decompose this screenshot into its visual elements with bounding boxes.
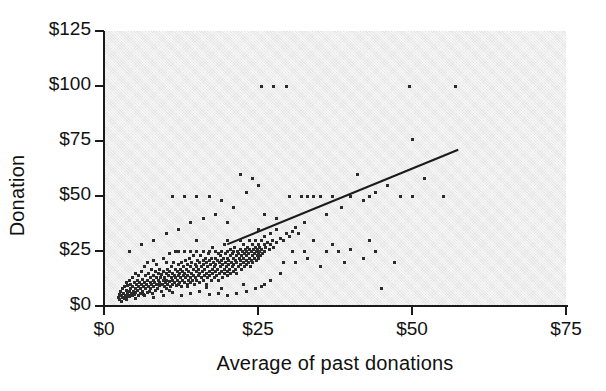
- x-tick-mark: [103, 306, 105, 315]
- data-point: [245, 290, 248, 293]
- scatter-chart: Donation $0$25$50$75$100$125 $0$25$50$75…: [0, 0, 606, 391]
- x-tick-mark: [411, 306, 413, 315]
- data-point: [208, 293, 211, 296]
- data-point: [368, 239, 371, 242]
- data-point: [249, 265, 252, 268]
- data-point: [239, 173, 242, 176]
- x-axis-line: [103, 305, 568, 307]
- data-point: [131, 276, 134, 279]
- x-axis-title-text: Average of past donations: [216, 352, 453, 374]
- data-point: [423, 177, 426, 180]
- data-point: [188, 257, 191, 260]
- data-point: [220, 199, 223, 202]
- data-point: [120, 300, 123, 303]
- x-tick-mark: [565, 306, 567, 315]
- data-point: [297, 232, 300, 235]
- data-point: [192, 254, 195, 257]
- data-point: [319, 195, 322, 198]
- data-point: [171, 291, 174, 294]
- data-point: [260, 285, 263, 288]
- data-point: [198, 290, 201, 293]
- data-point: [300, 195, 303, 198]
- data-point: [186, 285, 189, 288]
- data-point: [134, 297, 137, 300]
- data-point: [205, 286, 208, 289]
- data-point: [211, 246, 214, 249]
- data-point: [288, 195, 291, 198]
- y-tick-label: $25: [59, 238, 91, 260]
- data-point: [356, 173, 359, 176]
- data-point: [331, 243, 334, 246]
- data-point: [168, 289, 171, 292]
- data-point: [408, 85, 411, 88]
- data-point: [263, 235, 266, 238]
- data-point: [312, 195, 315, 198]
- data-point: [172, 261, 175, 264]
- data-point: [288, 235, 291, 238]
- data-point: [165, 261, 168, 264]
- y-tick-label: $100: [49, 73, 91, 95]
- data-point: [337, 250, 340, 253]
- data-point: [399, 195, 402, 198]
- y-tick-mark: [95, 85, 104, 87]
- data-point: [150, 268, 153, 271]
- data-point: [374, 250, 377, 253]
- data-point: [374, 191, 377, 194]
- trendline-segment: [227, 150, 458, 245]
- data-point: [146, 261, 149, 264]
- data-point: [271, 239, 274, 242]
- data-point: [162, 257, 165, 260]
- data-point: [349, 195, 352, 198]
- data-point: [386, 184, 389, 187]
- data-point: [137, 274, 140, 277]
- data-point: [125, 298, 128, 301]
- data-point: [189, 292, 192, 295]
- data-point: [235, 272, 238, 275]
- data-point: [275, 228, 278, 231]
- data-point: [340, 206, 343, 209]
- data-point: [147, 272, 150, 275]
- x-tick-label: $0: [69, 318, 139, 340]
- data-point: [156, 287, 159, 290]
- data-point: [263, 283, 266, 286]
- data-point: [411, 195, 414, 198]
- data-point: [170, 265, 173, 268]
- data-point: [210, 279, 213, 282]
- data-point: [208, 195, 211, 198]
- data-point: [220, 287, 223, 290]
- data-point: [291, 230, 294, 233]
- data-point: [222, 257, 225, 260]
- data-point: [221, 276, 224, 279]
- trendline: [104, 31, 566, 306]
- y-tick-label: $50: [59, 183, 91, 205]
- data-point: [411, 138, 414, 141]
- data-point: [275, 217, 278, 220]
- data-point: [195, 239, 198, 242]
- data-point: [257, 228, 260, 231]
- data-point: [193, 283, 196, 286]
- data-point: [158, 268, 161, 271]
- data-point: [260, 85, 263, 88]
- data-point: [263, 250, 266, 253]
- data-point: [184, 259, 187, 262]
- data-point: [143, 265, 146, 268]
- data-point: [260, 239, 263, 242]
- data-point: [247, 261, 250, 264]
- data-point: [232, 250, 235, 253]
- data-point: [199, 254, 202, 257]
- y-tick-label: $125: [49, 18, 91, 40]
- y-tick-mark: [95, 30, 104, 32]
- data-point: [454, 85, 457, 88]
- data-point: [254, 287, 257, 290]
- data-point: [294, 261, 297, 264]
- data-point: [242, 283, 245, 286]
- data-point: [257, 184, 260, 187]
- data-point: [380, 287, 383, 290]
- data-point: [282, 261, 285, 264]
- data-point: [272, 246, 275, 249]
- data-point: [168, 252, 171, 255]
- data-point: [202, 217, 205, 220]
- data-point: [319, 265, 322, 268]
- data-point: [151, 292, 154, 295]
- x-tick-label: $25: [223, 318, 293, 340]
